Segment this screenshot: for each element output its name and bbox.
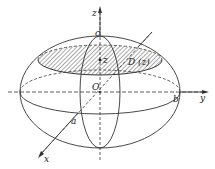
y-axis-label: y [199, 93, 206, 103]
z-arrow-icon [98, 6, 102, 13]
z-axis-label: z [91, 8, 97, 18]
origin-label: O [92, 82, 100, 92]
top-intercept-label: c [95, 28, 100, 38]
x-intercept-label: a [71, 116, 76, 126]
section-region-label: D (z) [127, 57, 150, 67]
ellipsoid-diagram: z c z D (z) O b y a x [0, 0, 215, 169]
section-center-point [99, 59, 102, 62]
x-axis-label: x [44, 154, 49, 164]
x-axis-back [138, 32, 152, 47]
section-point-label: z [102, 55, 108, 65]
y-intercept-label: b [173, 94, 179, 104]
